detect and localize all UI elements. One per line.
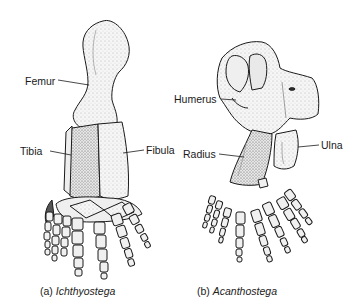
caption-b-prefix: (b) <box>197 285 210 297</box>
label-femur: Femur <box>25 76 55 87</box>
limb-comparison-diagram: Femur Tibia Fibula Humerus Radius Ulna (… <box>0 0 360 308</box>
caption-a-taxon: Ichthyostega <box>56 285 116 297</box>
ulna-bone <box>274 130 298 169</box>
acanthostega-forelimb <box>202 42 319 263</box>
label-tibia: Tibia <box>20 146 42 157</box>
fibula-bone <box>98 122 129 199</box>
femur-bone <box>73 20 129 132</box>
label-ulna: Ulna <box>321 140 343 151</box>
caption-b-taxon: Acanthostega <box>213 285 277 297</box>
caption-a: (a) Ichthyostega <box>40 286 115 297</box>
label-fibula: Fibula <box>146 145 175 156</box>
digits-acanthostega <box>202 189 313 263</box>
caption-b: (b) Acanthostega <box>197 286 277 297</box>
bone-illustration <box>0 0 360 308</box>
ichthyostega-hindlimb <box>44 20 151 279</box>
label-radius: Radius <box>183 149 216 160</box>
radius-bone <box>230 130 272 185</box>
label-humerus: Humerus <box>174 94 217 105</box>
caption-a-prefix: (a) <box>40 285 53 297</box>
